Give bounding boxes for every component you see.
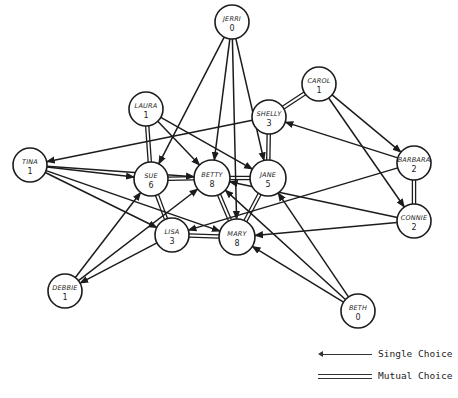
mutual-choice-carol-shelly — [282, 92, 305, 109]
double-line-sample — [318, 374, 372, 379]
node-barbara: BARBARA2 — [397, 146, 431, 180]
node-name: TINA — [22, 158, 38, 166]
node-choice-count: 2 — [411, 165, 416, 174]
node-choice-count: 1 — [143, 111, 148, 120]
legend-mutual-choice: Mutual Choice — [316, 370, 456, 384]
node-lisa: LISA3 — [155, 218, 189, 252]
node-mary: MARY8 — [219, 219, 255, 255]
node-tina: TINA1 — [13, 148, 47, 182]
mutual-choice-sue-betty — [168, 177, 194, 181]
mutual-choice-sue-lisa — [155, 194, 167, 219]
single-choice-arrow-jerri-to-sue — [159, 37, 224, 164]
single-choice-arrow-carol-to-connie — [329, 98, 405, 207]
single-choice-arrow-jerri-to-betty — [214, 39, 230, 160]
node-choice-count: 8 — [234, 239, 239, 248]
mutual-choice-jane-mary — [244, 193, 261, 222]
node-choice-count: 3 — [169, 237, 174, 246]
node-name: BARBARA — [398, 156, 431, 164]
node-name: JANE — [258, 171, 277, 179]
node-name: CONNIE — [401, 214, 428, 222]
node-debbie: DEBBIE1 — [48, 274, 82, 308]
node-choice-count: 8 — [209, 180, 214, 189]
node-choice-count: 1 — [316, 86, 321, 95]
mutual-choice-betty-jane — [230, 176, 250, 179]
node-carol: CAROL1 — [302, 67, 336, 101]
person-nodes: JERRI0CAROL1LAURA1SHELLY3TINA1SUE6BETTY8… — [13, 5, 431, 328]
single-choice-arrow-beth-to-mary — [252, 246, 343, 302]
node-choice-count: 2 — [411, 223, 416, 232]
node-connie: CONNIE2 — [397, 204, 431, 238]
node-choice-count: 0 — [355, 313, 360, 322]
node-name: JERRI — [221, 15, 241, 23]
node-jerri: JERRI0 — [215, 5, 249, 39]
node-name: SUE — [144, 172, 158, 180]
single-choice-arrow-jerri-to-mary — [232, 39, 236, 219]
node-shelly: SHELLY3 — [252, 100, 286, 134]
node-name: MARY — [227, 230, 247, 238]
node-name: LISA — [165, 228, 180, 236]
single-choice-arrow-beth-to-jane — [278, 193, 348, 297]
node-name: SHELLY — [257, 110, 283, 118]
legend-single-label: Single Choice — [378, 348, 452, 359]
single-choice-arrow-barbara-to-shelly — [285, 122, 398, 158]
node-beth: BETH0 — [341, 294, 375, 328]
node-betty: BETTY8 — [194, 160, 230, 196]
single-choice-arrow-lisa-to-debbie — [80, 243, 157, 283]
node-sue: SUE6 — [134, 162, 168, 196]
node-name: DEBBIE — [52, 284, 78, 292]
node-jane: JANE5 — [250, 160, 286, 196]
node-choice-count: 1 — [62, 293, 67, 302]
mutual-choice-laura-sue — [146, 126, 152, 162]
legend-single-choice: Single Choice — [316, 348, 456, 362]
node-laura: LAURA1 — [129, 92, 163, 126]
sociogram-canvas: JERRI0CAROL1LAURA1SHELLY3TINA1SUE6BETTY8… — [0, 0, 458, 398]
single-line-sample — [320, 354, 372, 355]
node-name: BETTY — [201, 171, 223, 179]
mutual-choice-betty-mary — [218, 194, 232, 221]
single-choice-arrow-connie-to-mary — [255, 223, 397, 236]
node-name: LAURA — [135, 102, 158, 110]
node-choice-count: 3 — [266, 119, 271, 128]
single-choice-arrow-jerri-to-jane — [236, 39, 264, 161]
node-choice-count: 1 — [27, 167, 32, 176]
node-name: CAROL — [307, 77, 330, 85]
node-name: BETH — [349, 304, 367, 312]
single-choice-arrow-debbie-to-sue — [75, 192, 140, 277]
mutual-choice-shelly-jane — [267, 134, 271, 160]
mutual-choice-barbara-connie — [412, 180, 415, 204]
single-choice-arrow-carol-to-barbara — [332, 95, 401, 152]
node-choice-count: 6 — [148, 181, 153, 190]
mutual-choice-lisa-mary — [189, 234, 219, 238]
legend-mutual-label: Mutual Choice — [378, 370, 452, 381]
node-choice-count: 5 — [265, 180, 270, 189]
node-choice-count: 0 — [229, 24, 234, 33]
arrow-left-icon — [318, 351, 323, 357]
